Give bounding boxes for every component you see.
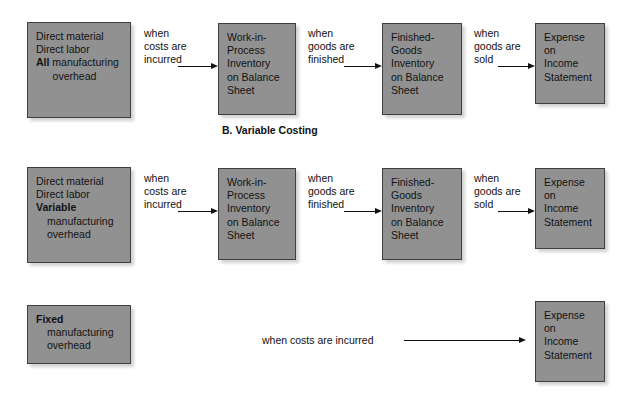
absorption-wip-line5: Sheet xyxy=(227,84,290,97)
fixed-expense-line2: on xyxy=(544,322,599,335)
absorption-direct-material-line: Direct material xyxy=(36,30,125,43)
variable-wip-line1: Work-in- xyxy=(227,176,290,189)
fixed-keyword-line: Fixed xyxy=(36,313,125,326)
absorption-label1-line1: when xyxy=(144,27,187,40)
variable-arrow-2 xyxy=(344,207,382,216)
absorption-wip-line2: Process xyxy=(227,44,290,57)
absorption-finished-goods-box: Finished- Goods Inventory on Balance She… xyxy=(382,23,462,115)
absorption-label2-line1: when xyxy=(308,27,355,40)
variable-direct-labor-line: Direct labor xyxy=(36,188,125,201)
variable-label2-line2: goods are xyxy=(308,185,355,198)
variable-keyword-line: Variable xyxy=(36,201,125,214)
absorption-expense-income-statement-box: Expense on Income Statement xyxy=(535,23,605,104)
variable-fg-line2: Goods xyxy=(391,189,456,202)
absorption-wip-line1: Work-in- xyxy=(227,31,290,44)
absorption-wip-line3: Inventory xyxy=(227,57,290,70)
variable-arrow-3 xyxy=(498,207,535,216)
absorption-label-goods-sold: when goods are sold xyxy=(474,27,521,67)
absorption-all-keyword: All xyxy=(36,56,49,68)
variable-expense-line1: Expense xyxy=(544,176,599,189)
variable-fg-line4: on Balance xyxy=(391,216,456,229)
fixed-expense-line1: Expense xyxy=(544,309,599,322)
fixed-overhead-box: Fixed manufacturing overhead xyxy=(27,305,131,364)
absorption-expense-line3: Income xyxy=(544,57,599,70)
absorption-label3-line2: goods are xyxy=(474,40,521,53)
variable-cost-inputs-box: Direct material Direct labor Variable ma… xyxy=(27,167,131,263)
fixed-expense-line4: Statement xyxy=(544,349,599,362)
fixed-arrow-long xyxy=(404,336,526,345)
variable-wip-line2: Process xyxy=(227,189,290,202)
variable-wip-line5: Sheet xyxy=(227,229,290,242)
fixed-overhead-line: overhead xyxy=(36,339,125,352)
variable-label3-line1: when xyxy=(474,172,521,185)
absorption-fg-line2: Goods xyxy=(391,44,456,57)
absorption-direct-labor-line: Direct labor xyxy=(36,43,125,56)
absorption-expense-line1: Expense xyxy=(544,31,599,44)
variable-fg-line5: Sheet xyxy=(391,229,456,242)
costing-flow-diagram: Direct material Direct labor All manufac… xyxy=(0,0,630,394)
variable-label1-line1: when xyxy=(144,172,187,185)
absorption-expense-line4: Statement xyxy=(544,71,599,84)
variable-wip-inventory-box: Work-in- Process Inventory on Balance Sh… xyxy=(218,168,296,260)
variable-direct-material-line: Direct material xyxy=(36,175,125,188)
variable-finished-goods-box: Finished- Goods Inventory on Balance She… xyxy=(382,168,462,260)
variable-label-costs-incurred: when costs are incurred xyxy=(144,172,187,212)
absorption-fg-line4: on Balance xyxy=(391,71,456,84)
absorption-manufacturing-word: manufacturing xyxy=(49,56,118,68)
absorption-arrow-3 xyxy=(498,62,535,71)
variable-expense-line3: Income xyxy=(544,202,599,215)
fixed-expense-line3: Income xyxy=(544,335,599,348)
absorption-label-costs-incurred: when costs are incurred xyxy=(144,27,187,67)
variable-expense-income-statement-box: Expense on Income Statement xyxy=(535,168,605,249)
fixed-label-costs-incurred: when costs are incurred xyxy=(262,334,373,347)
variable-label2-line1: when xyxy=(308,172,355,185)
variable-label3-line2: goods are xyxy=(474,185,521,198)
variable-wip-line4: on Balance xyxy=(227,216,290,229)
variable-overhead-line: overhead xyxy=(36,228,125,241)
absorption-fg-line3: Inventory xyxy=(391,57,456,70)
variable-manufacturing-line: manufacturing xyxy=(36,215,125,228)
absorption-label-goods-finished: when goods are finished xyxy=(308,27,355,67)
absorption-wip-line4: on Balance xyxy=(227,71,290,84)
absorption-label1-line2: costs are xyxy=(144,40,187,53)
fixed-manufacturing-line: manufacturing xyxy=(36,326,125,339)
absorption-fg-line1: Finished- xyxy=(391,31,456,44)
fixed-expense-income-statement-box: Expense on Income Statement xyxy=(535,301,605,382)
variable-label1-line2: costs are xyxy=(144,185,187,198)
absorption-wip-inventory-box: Work-in- Process Inventory on Balance Sh… xyxy=(218,23,296,115)
variable-fg-line3: Inventory xyxy=(391,202,456,215)
absorption-expense-line2: on xyxy=(544,44,599,57)
absorption-fg-line5: Sheet xyxy=(391,84,456,97)
variable-label-goods-sold: when goods are sold xyxy=(474,172,521,212)
section-heading-variable-costing: B. Variable Costing xyxy=(222,124,318,136)
variable-expense-line4: Statement xyxy=(544,216,599,229)
absorption-label3-line1: when xyxy=(474,27,521,40)
variable-arrow-1 xyxy=(178,207,218,216)
variable-fg-line1: Finished- xyxy=(391,176,456,189)
absorption-cost-inputs-box: Direct material Direct labor All manufac… xyxy=(27,22,131,118)
absorption-arrow-2 xyxy=(344,62,382,71)
variable-label-goods-finished: when goods are finished xyxy=(308,172,355,212)
absorption-arrow-1 xyxy=(178,62,218,71)
variable-expense-line2: on xyxy=(544,189,599,202)
absorption-label2-line2: goods are xyxy=(308,40,355,53)
absorption-overhead-line: overhead xyxy=(36,70,125,83)
variable-wip-line3: Inventory xyxy=(227,202,290,215)
